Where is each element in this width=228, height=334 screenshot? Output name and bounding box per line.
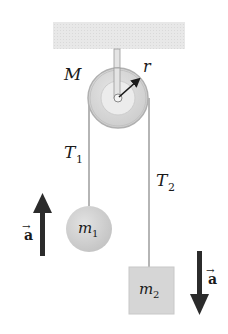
- svg-text:2: 2: [153, 289, 159, 300]
- atwood-machine-diagram: M r T 1 T 2 m 1 m 2 → a → a: [0, 0, 228, 334]
- mass-left-sphere: m 1: [66, 206, 112, 252]
- svg-text:m: m: [139, 280, 153, 298]
- svg-text:m: m: [78, 219, 92, 237]
- pulley: [88, 68, 148, 128]
- svg-text:1: 1: [76, 153, 83, 166]
- ceiling: [53, 22, 185, 49]
- tension-left-label: T 1: [64, 142, 83, 166]
- svg-text:1: 1: [92, 228, 98, 239]
- acceleration-right-label: → a: [206, 265, 217, 287]
- pulley-radius-label: r: [143, 57, 152, 76]
- mass-right-box: m 2: [129, 267, 174, 314]
- svg-text:a: a: [208, 271, 217, 287]
- tension-right-label: T 2: [156, 170, 175, 194]
- pulley-mass-label: M: [63, 64, 82, 84]
- svg-text:a: a: [24, 227, 33, 243]
- acceleration-down-arrow-icon: [190, 251, 209, 315]
- acceleration-left-label: → a: [22, 221, 33, 243]
- acceleration-up-arrow-icon: [33, 193, 52, 256]
- svg-text:2: 2: [168, 181, 175, 194]
